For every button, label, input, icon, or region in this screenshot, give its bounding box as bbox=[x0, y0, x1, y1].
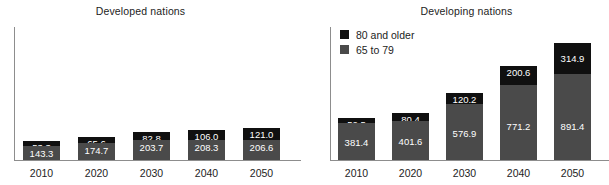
bar-segment-80-and-older-2020[interactable]: 65.6 bbox=[78, 137, 115, 143]
bar-segment-65-to-79-2050[interactable]: 206.6 bbox=[243, 140, 280, 160]
bar-group-2020[interactable]: 401.680.4 bbox=[392, 113, 429, 160]
chart-legend: 80 and older 65 to 79 bbox=[340, 27, 414, 57]
bar-segment-65-to-79-2020[interactable]: 174.7 bbox=[78, 143, 115, 160]
bar-value-label-65-to-79-2030: 203.7 bbox=[133, 142, 170, 153]
bar-group-2040[interactable]: 208.3106.0 bbox=[188, 130, 225, 160]
bar-value-label-65-to-79-2040: 771.2 bbox=[500, 121, 537, 132]
bar-group-2010[interactable]: 143.353.3 bbox=[23, 141, 60, 160]
bar-group-2040[interactable]: 771.2200.6 bbox=[500, 66, 537, 160]
chart-panel-developing: Developing nations 381.452.52010401.680.… bbox=[304, 0, 609, 185]
legend-swatch-icon-80-and-older bbox=[340, 30, 349, 39]
chart-panel-developed: Developed nations 143.353.32010174.765.6… bbox=[0, 0, 305, 185]
bar-segment-80-and-older-2010[interactable]: 53.3 bbox=[23, 141, 60, 146]
bar-group-2050[interactable]: 206.6121.0 bbox=[243, 128, 280, 160]
y-axis-developed bbox=[14, 27, 15, 160]
bar-segment-65-to-79-2040[interactable]: 208.3 bbox=[188, 140, 225, 160]
legend-item-80-and-older: 80 and older bbox=[340, 27, 414, 42]
legend-label-65-to-79: 65 to 79 bbox=[356, 44, 394, 56]
bar-group-2050[interactable]: 891.4314.9 bbox=[554, 43, 591, 160]
bar-segment-65-to-79-2010[interactable]: 143.3 bbox=[23, 146, 60, 160]
x-axis-label-2050: 2050 bbox=[548, 167, 597, 179]
bar-segment-80-and-older-2050[interactable]: 314.9 bbox=[554, 43, 591, 73]
plot-area-developed: 143.353.32010174.765.62020203.782.820302… bbox=[0, 0, 305, 185]
x-axis-label-2010: 2010 bbox=[17, 167, 66, 179]
x-axis-label-2020: 2020 bbox=[72, 167, 121, 179]
bar-value-label-65-to-79-2050: 206.6 bbox=[243, 142, 280, 153]
bar-value-label-65-to-79-2020: 401.6 bbox=[392, 136, 429, 147]
x-axis-developed bbox=[14, 160, 301, 161]
bar-segment-65-to-79-2030[interactable]: 203.7 bbox=[133, 140, 170, 160]
x-axis-label-2030: 2030 bbox=[440, 167, 489, 179]
bar-value-label-65-to-79-2010: 381.4 bbox=[338, 137, 375, 148]
bar-segment-80-and-older-2020[interactable]: 80.4 bbox=[392, 113, 429, 121]
legend-swatch-icon-65-to-79 bbox=[340, 45, 349, 54]
bar-value-label-80-and-older-2050: 314.9 bbox=[554, 53, 591, 64]
bar-value-label-80-and-older-2050: 121.0 bbox=[243, 129, 280, 140]
bar-segment-65-to-79-2030[interactable]: 576.9 bbox=[446, 104, 483, 160]
bar-value-label-65-to-79-2040: 208.3 bbox=[188, 142, 225, 153]
bar-value-label-65-to-79-2050: 891.4 bbox=[554, 121, 591, 132]
bar-segment-65-to-79-2020[interactable]: 401.6 bbox=[392, 121, 429, 160]
legend-label-80-and-older: 80 and older bbox=[356, 29, 414, 41]
bar-value-label-80-and-older-2010: 52.5 bbox=[338, 119, 375, 123]
bar-segment-80-and-older-2040[interactable]: 200.6 bbox=[500, 66, 537, 85]
bar-group-2010[interactable]: 381.452.5 bbox=[338, 118, 375, 160]
bar-segment-65-to-79-2050[interactable]: 891.4 bbox=[554, 74, 591, 160]
bar-segment-80-and-older-2030[interactable]: 82.8 bbox=[133, 132, 170, 140]
bar-value-label-80-and-older-2030: 120.2 bbox=[446, 94, 483, 105]
x-axis-label-2050: 2050 bbox=[237, 167, 286, 179]
bar-group-2030[interactable]: 576.9120.2 bbox=[446, 93, 483, 160]
bar-value-label-80-and-older-2040: 200.6 bbox=[500, 67, 537, 78]
bar-value-label-80-and-older-2010: 53.3 bbox=[23, 142, 60, 146]
bar-value-label-80-and-older-2020: 80.4 bbox=[392, 114, 429, 121]
bar-segment-80-and-older-2010[interactable]: 52.5 bbox=[338, 118, 375, 123]
bar-group-2020[interactable]: 174.765.6 bbox=[78, 137, 115, 160]
bar-value-label-65-to-79-2010: 143.3 bbox=[23, 148, 60, 159]
bar-segment-65-to-79-2040[interactable]: 771.2 bbox=[500, 85, 537, 160]
bar-segment-80-and-older-2030[interactable]: 120.2 bbox=[446, 93, 483, 105]
x-axis-label-2040: 2040 bbox=[182, 167, 231, 179]
bar-value-label-65-to-79-2030: 576.9 bbox=[446, 128, 483, 139]
x-axis-label-2040: 2040 bbox=[494, 167, 543, 179]
x-axis-label-2030: 2030 bbox=[127, 167, 176, 179]
bar-segment-65-to-79-2010[interactable]: 381.4 bbox=[338, 123, 375, 160]
y-axis-developing bbox=[330, 27, 331, 160]
bar-segment-80-and-older-2050[interactable]: 121.0 bbox=[243, 128, 280, 140]
bar-value-label-65-to-79-2020: 174.7 bbox=[78, 145, 115, 156]
bar-group-2030[interactable]: 203.782.8 bbox=[133, 132, 170, 160]
bar-value-label-80-and-older-2040: 106.0 bbox=[188, 131, 225, 140]
x-axis-label-2010: 2010 bbox=[332, 167, 381, 179]
x-axis-label-2020: 2020 bbox=[386, 167, 435, 179]
x-axis-developing bbox=[330, 160, 609, 161]
legend-item-65-to-79: 65 to 79 bbox=[340, 42, 414, 57]
bar-segment-80-and-older-2040[interactable]: 106.0 bbox=[188, 130, 225, 140]
bar-value-label-80-and-older-2020: 65.6 bbox=[78, 138, 115, 143]
bar-value-label-80-and-older-2030: 82.8 bbox=[133, 133, 170, 140]
